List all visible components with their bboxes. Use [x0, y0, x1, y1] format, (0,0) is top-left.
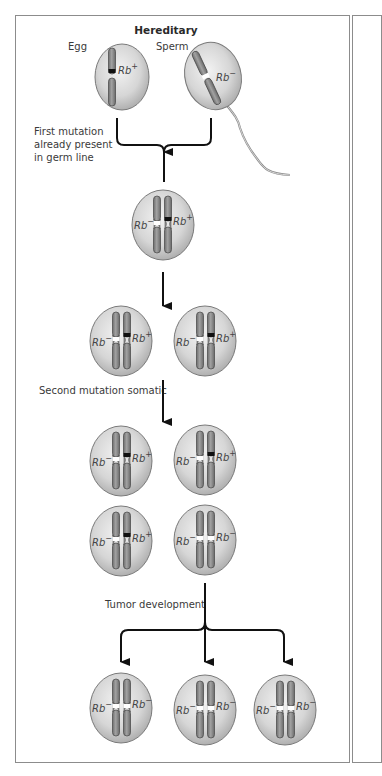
first-mutation-label-line3: in germ line	[34, 152, 94, 163]
first-mutation-label-line1: First mutation	[34, 126, 104, 137]
zygote-cell: Rb− Rb+	[132, 190, 194, 260]
divided-cell-1: Rb− Rb+	[90, 306, 152, 376]
sperm-label: Sperm	[156, 41, 189, 52]
tumor-cell-1: Rb− Rb−	[90, 673, 152, 743]
somatic-cell-4-double-mutant: Rb− Rb−	[174, 505, 236, 575]
tumor-cell-3: Rb− Rb−	[254, 675, 316, 745]
egg-label: Egg	[68, 41, 87, 52]
somatic-cell-3: Rb− Rb+	[90, 506, 152, 576]
tumor-branch-arrows	[121, 583, 284, 662]
somatic-cell-1: Rb− Rb+	[90, 426, 152, 496]
first-mutation-label-line2: already present	[34, 139, 113, 150]
fertilization-merge-arrow	[117, 118, 211, 182]
sperm-tail	[225, 103, 290, 175]
tumor-development-label: Tumor development	[104, 599, 205, 610]
egg-cell: Rb+	[95, 44, 149, 110]
somatic-cell-2: Rb− Rb+	[174, 425, 236, 495]
divided-cell-2: Rb− Rb+	[174, 306, 236, 376]
wild-type-band	[109, 69, 116, 73]
tumor-cell-2: Rb− Rb−	[174, 675, 236, 745]
sperm-cell: Rb−	[177, 36, 290, 175]
diagram-title: Hereditary	[134, 24, 198, 36]
second-mutation-label: Second mutation somatic	[39, 385, 167, 396]
